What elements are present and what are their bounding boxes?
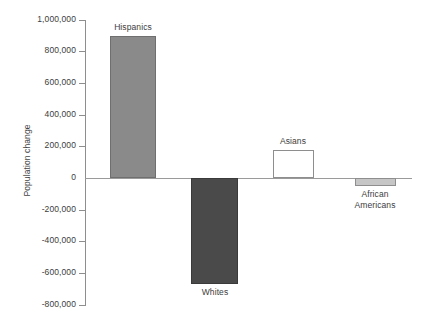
y-tick-mark xyxy=(79,241,85,242)
bar-label-whites: Whites xyxy=(175,287,255,298)
bar-asians xyxy=(273,150,314,178)
y-tick-label: -200,000 xyxy=(4,205,76,214)
y-tick-mark xyxy=(79,210,85,211)
bar-african-americans xyxy=(355,178,396,186)
y-tick-label-container: -600,000 xyxy=(0,268,76,277)
y-tick-mark xyxy=(79,273,85,274)
y-tick-mark xyxy=(79,305,85,306)
bar-label-asians: Asians xyxy=(253,136,333,147)
y-tick-label-container: -400,000 xyxy=(0,236,76,245)
y-tick-label: 1,000,000 xyxy=(4,15,76,24)
bar-hispanics xyxy=(110,36,156,178)
y-tick-label: 600,000 xyxy=(4,78,76,87)
y-tick-label: 200,000 xyxy=(4,141,76,150)
y-tick-label-container: 200,000 xyxy=(0,141,76,150)
y-tick-label: -400,000 xyxy=(4,236,76,245)
y-tick-label: 800,000 xyxy=(4,46,76,55)
y-tick-label: -600,000 xyxy=(4,268,76,277)
bar-label-hispanics: Hispanics xyxy=(93,22,173,33)
y-tick-label-container: 600,000 xyxy=(0,78,76,87)
y-tick-mark xyxy=(79,20,85,21)
plot-area: 1,000,000 800,000 600,000 400,000 200,00… xyxy=(0,0,430,321)
population-change-bar-chart: Population change 1,000,000 800,000 600,… xyxy=(0,0,430,321)
y-tick-label: 0 xyxy=(4,173,76,182)
bar-whites xyxy=(191,178,238,284)
y-tick-mark xyxy=(79,51,85,52)
y-tick-label-container: -800,000 xyxy=(0,300,76,309)
y-tick-mark xyxy=(79,115,85,116)
y-tick-label: -800,000 xyxy=(4,300,76,309)
y-axis-line xyxy=(85,20,86,306)
y-tick-mark xyxy=(79,83,85,84)
y-tick-label-container: 800,000 xyxy=(0,46,76,55)
y-tick-label-container: -200,000 xyxy=(0,205,76,214)
y-tick-mark xyxy=(79,146,85,147)
y-tick-label-container: 400,000 xyxy=(0,110,76,119)
y-tick-label-container: 0 xyxy=(0,173,76,182)
y-tick-label-container: 1,000,000 xyxy=(0,15,76,24)
y-tick-label: 400,000 xyxy=(4,110,76,119)
bar-label-african-americans: African Americans xyxy=(335,189,415,210)
